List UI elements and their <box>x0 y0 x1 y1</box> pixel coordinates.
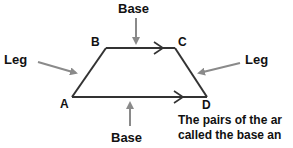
label-top-base: Base <box>118 1 149 16</box>
caption-line-2: called the base an <box>178 128 281 142</box>
vertex-label-d: D <box>202 98 211 112</box>
pointer-arrow-left-leg-icon <box>38 62 76 73</box>
vertex-label-a: A <box>60 97 69 111</box>
side-ab <box>72 48 106 97</box>
label-right-leg: Leg <box>245 52 268 67</box>
pointer-arrow-right-leg-icon <box>199 63 240 73</box>
trapezoid-diagram: Base Base Leg Leg B C A D The pairs of t… <box>0 0 293 148</box>
vertex-label-b: B <box>91 35 100 49</box>
label-bottom-base: Base <box>111 130 142 145</box>
vertex-label-c: C <box>178 35 187 49</box>
label-left-leg: Leg <box>4 52 27 67</box>
caption-line-1: The pairs of the ar <box>178 113 282 127</box>
